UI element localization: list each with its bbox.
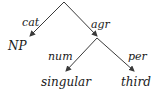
node-third: third: [121, 76, 151, 88]
edge-label-agr: agr: [91, 19, 110, 30]
feature-structure-diagram: cat agr NP num per singular third: [0, 0, 157, 94]
edge-label-per: per: [128, 51, 147, 62]
node-np: NP: [8, 40, 27, 52]
edge-label-cat: cat: [22, 17, 39, 28]
node-singular: singular: [41, 76, 91, 88]
edge-label-num: num: [48, 51, 73, 62]
